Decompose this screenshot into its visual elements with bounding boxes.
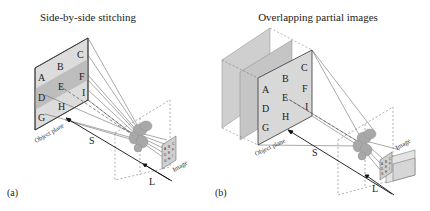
panel-b: Overlapping partial images A B C D E F G… — [215, 11, 415, 199]
panel-a-title: Side-by-side stitching — [40, 11, 137, 23]
distance-l-label: L — [372, 183, 378, 194]
distance-arrows — [66, 118, 172, 181]
panel-b-label: (b) — [215, 187, 227, 199]
svg-text:B: B — [168, 145, 170, 149]
grid-label-c: C — [301, 62, 308, 73]
grid-label-h: H — [282, 111, 289, 122]
grid-label-a: A — [38, 72, 46, 83]
distance-s-label: S — [89, 135, 95, 146]
grid-label-d: D — [38, 92, 45, 103]
distance-l-label: L — [149, 176, 155, 187]
panel-a: Side-by-side stitching A B C D E F G H I — [7, 11, 189, 199]
grid-label-i: I — [82, 87, 85, 98]
svg-text:E: E — [168, 151, 170, 155]
figure-canvas: Side-by-side stitching A B C D E F G H I — [0, 0, 430, 211]
grid-label-g: G — [262, 122, 269, 133]
svg-text:F: F — [389, 162, 391, 166]
grid-label-f: F — [79, 71, 85, 82]
grid-label-f: F — [302, 83, 308, 94]
grid-label-d: D — [262, 103, 269, 114]
svg-text:I: I — [172, 154, 173, 158]
svg-text:E: E — [385, 165, 387, 169]
svg-text:F: F — [172, 148, 174, 152]
svg-text:H: H — [385, 170, 387, 174]
panel-a-label: (a) — [7, 187, 18, 199]
svg-text:B: B — [385, 160, 387, 164]
grid-label-c: C — [77, 49, 84, 60]
grid-label-b: B — [57, 61, 64, 72]
grid-label-b: B — [282, 73, 289, 84]
distance-s-label: S — [312, 147, 318, 158]
grid-label-a: A — [262, 84, 270, 95]
panel-b-title: Overlapping partial images — [258, 11, 378, 23]
image-label: Image — [394, 137, 412, 151]
grid-label-g: G — [38, 112, 45, 123]
grid-label-e: E — [282, 92, 288, 103]
grid-label-h: H — [58, 101, 65, 112]
svg-text:A: A — [381, 162, 383, 166]
